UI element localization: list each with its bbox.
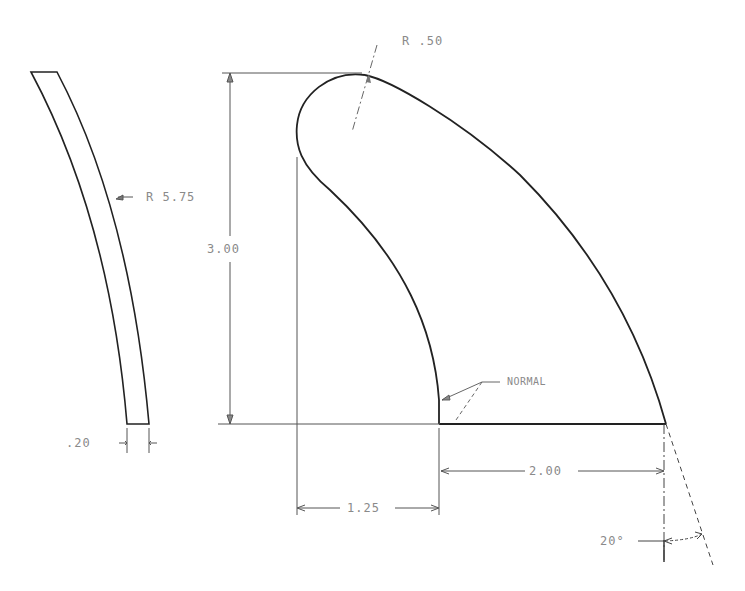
tip-radius-label: R .50 [402,35,443,47]
rake-offset-dimension [297,157,439,515]
rake-offset-label: 1.25 [347,502,380,514]
height-label: 3.00 [207,243,240,255]
angle-label: 20° [600,535,625,547]
normal-leaders [442,382,500,420]
normal-label: NORMAL [507,377,546,387]
fin-trailing-edge [365,75,666,424]
side-view [31,72,149,424]
base-length-label: 2.00 [529,465,562,477]
fin-leading-edge [297,74,439,424]
side-radius-label: R 5.75 [146,191,195,203]
thickness-dimension [119,428,157,453]
height-dimension [218,73,440,424]
radius-5-75-leader [116,195,133,200]
side-view-outline [31,72,149,424]
thickness-label: .20 [66,437,91,449]
angle-dimension [638,424,713,565]
fin-profile [297,74,666,424]
tip-radius-centerline [352,45,377,132]
